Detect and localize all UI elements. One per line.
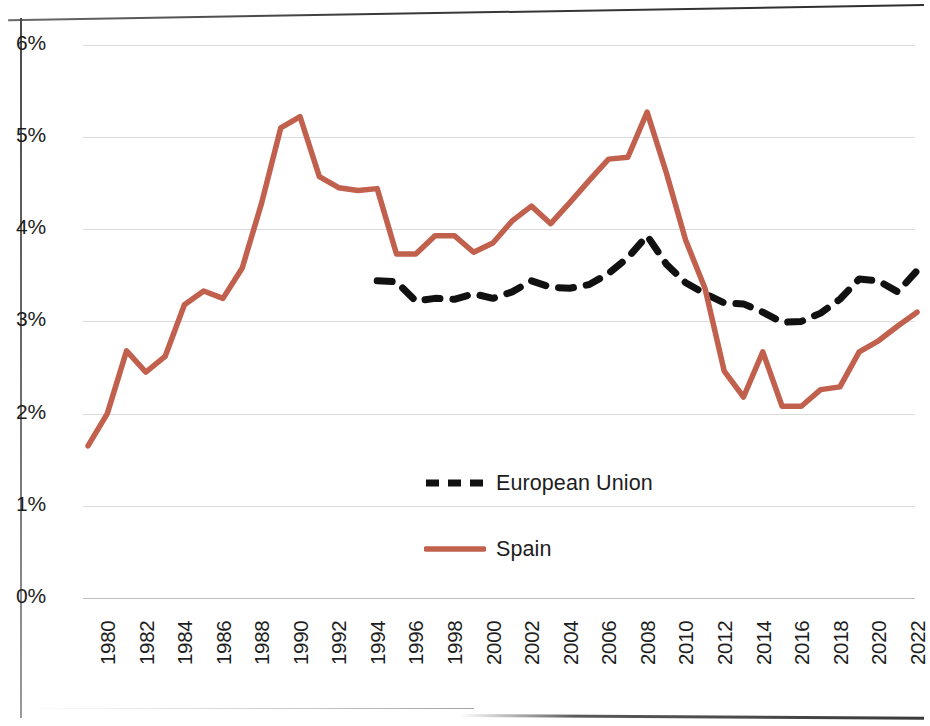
chart-legend: European Union Spain: [424, 462, 724, 570]
legend-swatch-dashed-icon: [424, 474, 486, 492]
legend-item-european-union: European Union: [424, 462, 724, 504]
legend-swatch-solid-icon: [424, 540, 486, 558]
series-line-european-union: [377, 236, 917, 323]
legend-item-spain: Spain: [424, 528, 724, 570]
legend-label-spain: Spain: [496, 537, 552, 562]
series-line-spain: [88, 112, 917, 446]
legend-label-european-union: European Union: [496, 471, 653, 496]
